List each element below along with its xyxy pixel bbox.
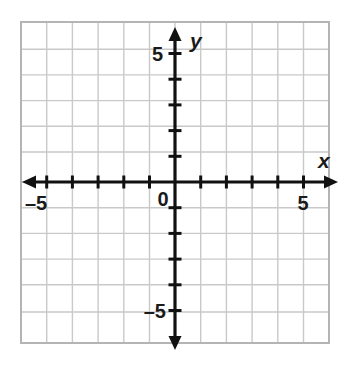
y-axis-label-negative-five: –5 [144,300,166,322]
coordinate-plane-svg: –5 5 5 –5 0 y x [0,0,349,365]
x-axis-label-positive-five: 5 [297,192,308,214]
coordinate-plane-figure: –5 5 5 –5 0 y x [0,0,349,365]
x-axis-label-negative-five: –5 [25,192,47,214]
y-axis-label-positive-five: 5 [152,43,163,65]
y-axis-name-label: y [189,29,203,52]
x-axis-name-label: x [317,149,331,172]
origin-label: 0 [157,188,168,210]
